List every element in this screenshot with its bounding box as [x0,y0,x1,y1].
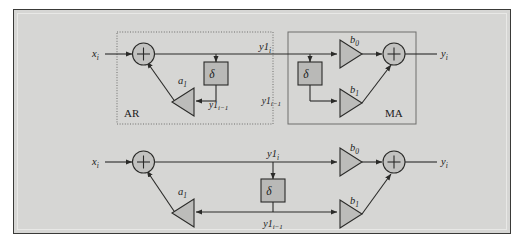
bottom-delay-output-label: y1i−1 [262,218,283,231]
bottom-input-label: xi [91,156,99,170]
bottom-gain-b0-label: b0 [350,142,359,156]
bottom-gain-a1-triangle [172,199,194,227]
ma-delay-block [298,62,322,85]
ma-gain-b0-label: b0 [350,34,359,48]
bottom-delay-block [261,179,285,202]
bottom-node-label: y1i [266,148,279,162]
bottom-gain-b1-to-summer-line [362,174,391,214]
ar-gain-label: a1 [178,75,187,89]
bottom-delay-symbol: δ [266,185,272,197]
ma-gain1-to-summer-line [362,65,391,103]
bottom-gain-b1-label: b1 [350,195,359,209]
bottom-gain-a1-label: a1 [178,186,187,200]
top-output-label: yi [440,48,448,62]
ar-gain-feedback-line [147,62,176,103]
figure-canvas: xi a1 δ y1i−1 AR y1i b0 b1 δ y1i−1 MA yi [0,0,525,248]
ar-delay-block [204,62,228,85]
ar-gain-triangle [172,88,194,116]
ma-delay-output-label: y1i−1 [261,96,281,108]
bottom-gain-a1-feedback-line [147,171,176,214]
arma-signal-flow-diagram: xi a1 δ y1i−1 AR y1i b0 b1 δ y1i−1 MA yi [0,0,525,248]
ma-input-label: y1i [258,41,271,55]
ma-block-label: MA [385,107,403,119]
bottom-output-label: yi [440,156,448,170]
ma-gain-b1-label: b1 [350,84,359,98]
ma-delay-symbol: δ [303,68,309,80]
ar-block-label: AR [124,107,140,119]
ar-delay-symbol: δ [209,68,215,80]
ar-input-label: xi [91,48,99,62]
ar-delay-output-label: y1i−1 [208,100,228,112]
